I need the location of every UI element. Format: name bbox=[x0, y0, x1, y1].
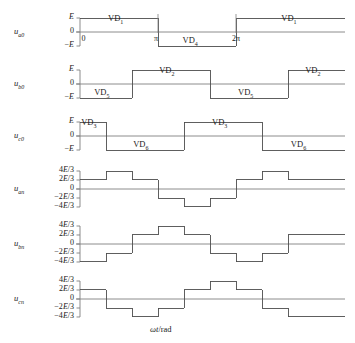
device-label: VD5 bbox=[94, 87, 109, 99]
x-tick-label: 2π bbox=[232, 34, 240, 43]
y-axis-label-u_cn: ucn bbox=[14, 293, 24, 305]
device-label: VD6 bbox=[133, 139, 148, 151]
y-tick-label: 4E/3 bbox=[59, 275, 74, 284]
device-label: VD4 bbox=[183, 35, 198, 47]
y-axis-label-u_c0: uc0 bbox=[14, 130, 24, 142]
y-tick-label: −E bbox=[65, 92, 74, 101]
device-label: VD3 bbox=[81, 117, 96, 129]
y-tick-label: 0 bbox=[70, 293, 74, 302]
device-label: VD1 bbox=[108, 13, 123, 25]
x-tick-label: 0 bbox=[82, 34, 86, 43]
y-axis-label-u_bn: ubn bbox=[14, 238, 24, 250]
y-axis-label-u_an: uan bbox=[14, 183, 24, 195]
x-axis-label: ωt/rad bbox=[150, 324, 172, 334]
y-tick-label: 4E/3 bbox=[59, 165, 74, 174]
device-label: VD3 bbox=[212, 117, 227, 129]
y-tick-label: E bbox=[69, 12, 74, 21]
y-tick-label: 2E/3 bbox=[59, 229, 74, 238]
waveform-figure: E0−Eua0VD1VD4VD1E0−Eub0VD5VD2VD5VD2E0−Eu… bbox=[0, 0, 355, 343]
device-label: VD2 bbox=[305, 65, 320, 77]
y-tick-label: 0 bbox=[70, 78, 74, 87]
y-tick-label: 4E/3 bbox=[59, 220, 74, 229]
y-tick-label: 0 bbox=[70, 238, 74, 247]
y-tick-label: 2E/3 bbox=[59, 284, 74, 293]
y-tick-label: −2E/3 bbox=[54, 247, 74, 256]
y-tick-label: E bbox=[69, 116, 74, 125]
y-tick-label: 0 bbox=[70, 26, 74, 35]
device-label: VD6 bbox=[291, 139, 306, 151]
y-tick-label: E bbox=[69, 64, 74, 73]
y-tick-label: 2E/3 bbox=[59, 174, 74, 183]
y-tick-label: −E bbox=[65, 144, 74, 153]
y-tick-label: −4E/3 bbox=[54, 311, 74, 320]
y-tick-label: 0 bbox=[70, 183, 74, 192]
y-tick-label: −4E/3 bbox=[54, 201, 74, 210]
y-tick-label: −E bbox=[65, 40, 74, 49]
y-axis-label-u_b0: ub0 bbox=[14, 78, 24, 90]
y-axis-label-u_a0: ua0 bbox=[14, 26, 24, 38]
y-tick-label: −2E/3 bbox=[54, 192, 74, 201]
device-label: VD5 bbox=[238, 87, 253, 99]
y-tick-label: 0 bbox=[70, 130, 74, 139]
device-label: VD2 bbox=[159, 65, 174, 77]
y-tick-label: −4E/3 bbox=[54, 256, 74, 265]
device-label: VD1 bbox=[281, 13, 296, 25]
x-tick-label: π bbox=[154, 34, 158, 43]
y-tick-label: −2E/3 bbox=[54, 302, 74, 311]
